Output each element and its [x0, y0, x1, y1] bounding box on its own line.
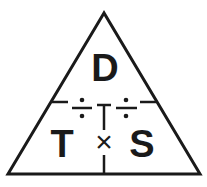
divide-left-dot-top: [80, 98, 85, 103]
label-time: T: [50, 123, 73, 165]
label-speed: S: [129, 123, 154, 165]
label-distance: D: [91, 47, 118, 89]
divide-right-dot-top: [124, 98, 129, 103]
dst-triangle: D T S ×: [0, 0, 207, 187]
divide-right-dot-bottom: [124, 114, 129, 119]
multiply-symbol: ×: [95, 125, 113, 158]
divide-left-dot-bottom: [80, 114, 85, 119]
